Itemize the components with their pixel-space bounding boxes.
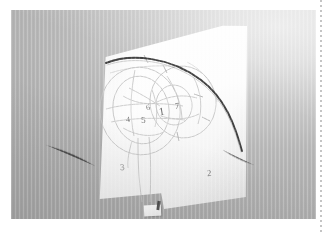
pencil-label-4: 4	[126, 116, 131, 124]
page-canvas: 1 2 3 4 5 6 7	[0, 0, 327, 233]
pencil-label-7: 7	[174, 102, 180, 112]
pencil-label-3: 3	[120, 163, 125, 172]
pencil-label-5: 5	[141, 116, 146, 125]
page-divider-dotted-line	[320, 0, 322, 233]
paper-shading	[99, 11, 247, 209]
paper-sheet	[99, 11, 247, 209]
pencil-label-2: 2	[207, 169, 212, 178]
photograph: 1 2 3 4 5 6 7	[11, 10, 316, 219]
